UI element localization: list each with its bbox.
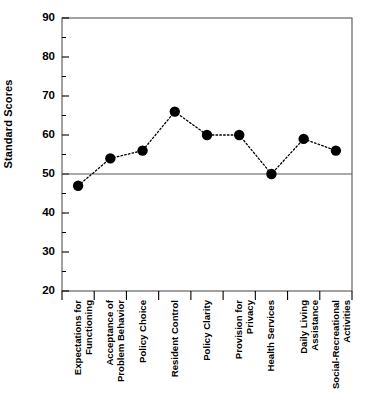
chart-container: Standard Scores 2030405060708090 Expecta… xyxy=(0,0,373,406)
data-point xyxy=(266,169,276,179)
data-point xyxy=(298,134,308,144)
series-markers xyxy=(73,106,341,190)
plot-area xyxy=(0,0,373,406)
x-axis-ticks xyxy=(62,291,352,300)
data-point xyxy=(170,106,180,116)
data-point xyxy=(202,130,212,140)
data-point xyxy=(234,130,244,140)
y-minor-ticks xyxy=(62,38,66,272)
data-point xyxy=(331,145,341,155)
data-point xyxy=(73,181,83,191)
series-line xyxy=(78,112,336,186)
data-point xyxy=(137,145,147,155)
data-point xyxy=(105,153,115,163)
axis-frame xyxy=(62,18,352,291)
